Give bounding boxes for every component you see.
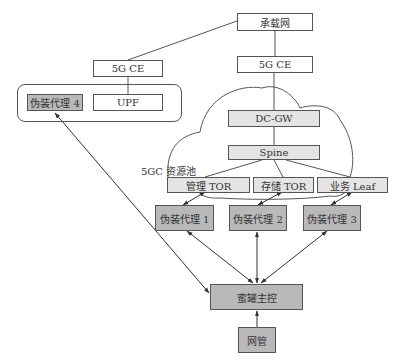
decoy-agent-4-label: 伪装代理 4 [30,95,80,110]
spine-label: Spine [260,147,289,158]
network-diagram: 承载网 5G CE 5G CE 伪装代理 4 UPF DC-GW Spine 5… [0,0,402,363]
honeypot-master-node[interactable]: 蜜罐主控 [210,284,303,310]
decoy-agent-2-label: 伪装代理 2 [233,211,283,226]
ce-left-label: 5G CE [112,63,144,74]
service-leaf-node[interactable]: 业务 Leaf [317,177,388,193]
honeypot-master-label: 蜜罐主控 [237,290,277,305]
ce-right-node[interactable]: 5G CE [237,56,313,73]
network-mgmt-node[interactable]: 网管 [238,327,276,353]
mgmt-tor-node[interactable]: 管理 TOR [167,177,250,193]
network-mgmt-label: 网管 [247,333,267,348]
mgmt-tor-label: 管理 TOR [186,178,232,193]
decoy-agent-3-node[interactable]: 伪装代理 3 [303,205,361,231]
upf-label: UPF [117,97,139,108]
ce-right-label: 5G CE [259,59,291,70]
decoy-agent-1-node[interactable]: 伪装代理 1 [155,205,214,231]
resource-pool-label: 5GC 资源池 [141,163,196,178]
decoy-agent-1-label: 伪装代理 1 [160,211,210,226]
spine-node[interactable]: Spine [228,145,320,160]
decoy-agent-3-label: 伪装代理 3 [307,211,357,226]
dc-gw-node[interactable]: DC-GW [228,110,320,127]
decoy-agent-2-node[interactable]: 伪装代理 2 [229,205,287,231]
dc-gw-label: DC-GW [255,113,292,124]
ce-left-node[interactable]: 5G CE [93,60,163,77]
storage-tor-node[interactable]: 存储 TOR [253,177,314,193]
carrier-network-label: 承载网 [260,15,290,30]
storage-tor-label: 存储 TOR [261,178,307,193]
carrier-network-node[interactable]: 承载网 [237,13,313,31]
service-leaf-label: 业务 Leaf [330,178,375,193]
decoy-agent-4-node[interactable]: 伪装代理 4 [27,94,83,111]
upf-node[interactable]: UPF [93,94,163,111]
